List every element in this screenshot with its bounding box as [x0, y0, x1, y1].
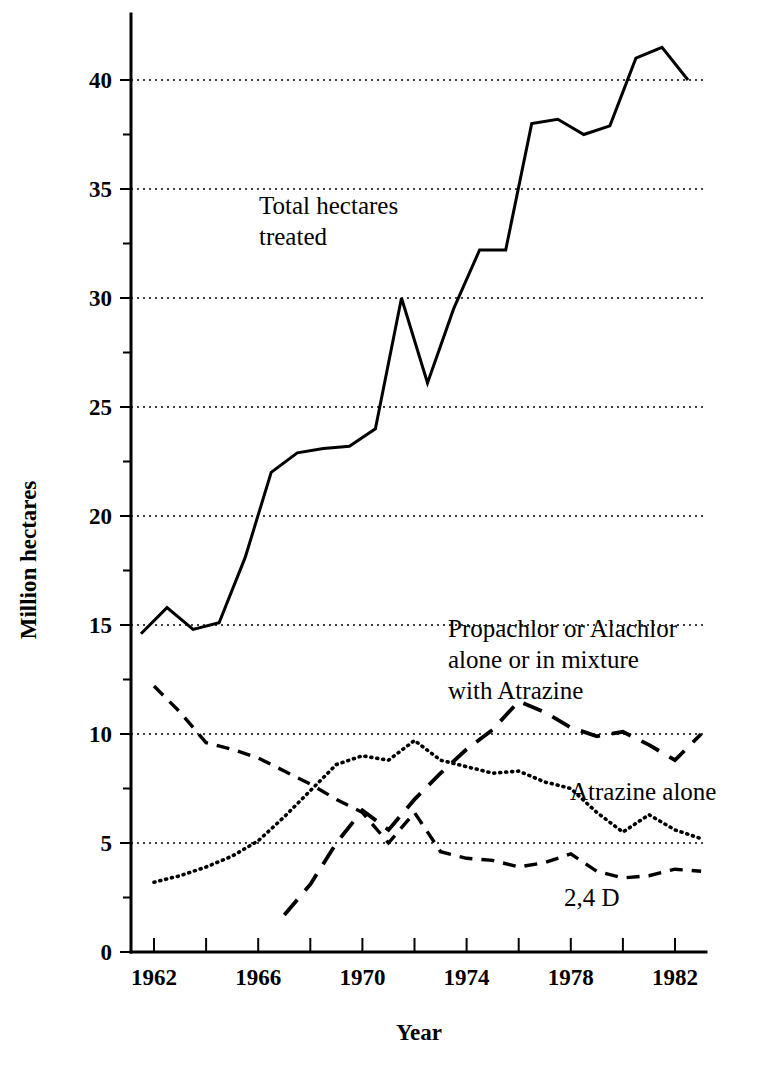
y-axis-tick-labels: 0510152025303540 [89, 68, 112, 965]
x-axis-ticks [154, 938, 675, 952]
x-tick-label-1974: 1974 [444, 965, 491, 990]
y-tick-label-5: 5 [101, 831, 113, 856]
y-tick-label-25: 25 [89, 395, 112, 420]
annotation-24d: 2,4 D [564, 884, 620, 911]
y-tick-label-10: 10 [89, 722, 112, 747]
annotation-propachlor-line1: Propachlor or Alachlor [448, 615, 678, 642]
y-axis-ticks [120, 80, 131, 952]
y-axis-title: Million hectares [16, 481, 41, 640]
line-chart-canvas: 0510152025303540 19621966197019741978198… [0, 0, 764, 1076]
annotation-total-line1: Total hectares [259, 192, 398, 219]
x-tick-label-1970: 1970 [339, 965, 385, 990]
y-tick-label-20: 20 [89, 504, 112, 529]
x-tick-label-1962: 1962 [131, 965, 177, 990]
x-axis-tick-labels: 196219661970197419781982 [131, 965, 698, 990]
y-tick-label-15: 15 [89, 613, 112, 638]
gridlines [131, 80, 706, 843]
annotation-total-line2: treated [259, 223, 328, 250]
series-annotations: Total hectares treated Propachlor or Ala… [259, 192, 716, 911]
y-tick-label-35: 35 [89, 177, 112, 202]
x-tick-label-1982: 1982 [652, 965, 698, 990]
y-tick-label-40: 40 [89, 68, 112, 93]
chart-figure: 0510152025303540 19621966197019741978198… [0, 0, 764, 1076]
annotation-propachlor-line2: alone or in mixture [448, 646, 639, 673]
x-tick-label-1978: 1978 [548, 965, 594, 990]
series-line-0 [141, 47, 688, 633]
y-tick-label-30: 30 [89, 286, 112, 311]
annotation-atrazine-alone: Atrazine alone [570, 778, 716, 805]
series-line-1 [154, 741, 701, 883]
annotation-total-hectares: Total hectares treated [259, 192, 404, 250]
y-tick-label-0: 0 [101, 940, 113, 965]
annotation-propachlor-line3: with Atrazine [448, 677, 583, 704]
x-tick-label-1966: 1966 [235, 965, 281, 990]
x-axis-title: Year [396, 1020, 442, 1045]
annotation-propachlor-alachlor: Propachlor or Alachlor alone or in mixtu… [448, 615, 683, 704]
